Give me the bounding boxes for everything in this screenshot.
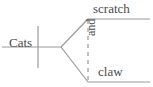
sentence-diagram: Cats scratch claw and bbox=[0, 0, 153, 87]
fork-branch-lower bbox=[61, 47, 88, 82]
subject-label: Cats bbox=[9, 36, 32, 49]
predicate-label-claw: claw bbox=[98, 65, 123, 78]
conjunction-label: and bbox=[85, 19, 97, 36]
predicate-label-scratch: scratch bbox=[93, 2, 130, 15]
